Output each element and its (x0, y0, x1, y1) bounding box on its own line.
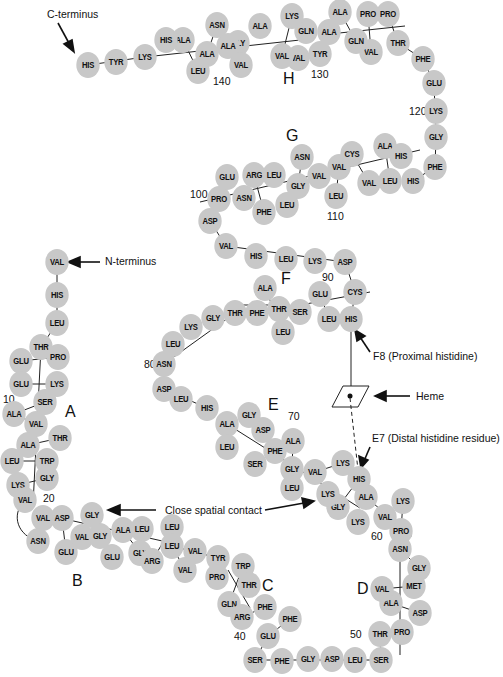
residue-glu: GLU (9, 371, 32, 397)
residue-number-50: 50 (350, 628, 362, 640)
residue-pro: PRO (356, 1, 379, 27)
residue-asp: ASP (408, 600, 431, 626)
residue-asp: ASP (50, 505, 73, 531)
residue-lys: LYS (179, 314, 202, 340)
residue-leu: LEU (186, 58, 209, 84)
residue-leu: LEU (160, 533, 183, 559)
residue-his: HIS (339, 306, 362, 332)
close-spatial-contact-label: Close spatial contact (165, 504, 262, 516)
heme-label: Heme (416, 390, 444, 402)
residue-glu: GLU (215, 164, 238, 190)
residue-asn: ASN (26, 528, 49, 554)
residue-val: VAL (173, 557, 196, 583)
residue-leu: LEU (378, 168, 401, 194)
residue-lys: LYS (280, 3, 303, 29)
residue-gly: GLY (35, 465, 58, 491)
residue-thr: THR (386, 30, 409, 56)
residue-thr: THR (48, 425, 71, 451)
residue-leu: LEU (0, 448, 23, 474)
helix-label-d: D (357, 580, 369, 598)
residue-lys: LYS (331, 450, 354, 476)
residue-his: HIS (401, 168, 424, 194)
residue-leu: LEU (280, 475, 303, 501)
residue-his: HIS (45, 282, 68, 308)
residue-ala: ALA (248, 13, 271, 39)
residue-his: HIS (389, 143, 412, 169)
residue-asp: ASP (333, 249, 356, 275)
residue-glu: GLU (308, 281, 331, 307)
residue-number-110: 110 (327, 210, 344, 222)
residue-val: VAL (214, 233, 237, 259)
residue-number-60: 60 (371, 530, 383, 542)
residue-ser: SER (243, 647, 266, 673)
residue-gly: GLY (237, 402, 260, 428)
residue-phe: PHE (270, 648, 293, 674)
residue-thr: THR (237, 572, 260, 598)
residue-phe: PHE (253, 594, 276, 620)
residue-number-70: 70 (288, 410, 300, 422)
residue-val: VAL (270, 43, 293, 69)
residue-lys: LYS (346, 509, 369, 535)
residue-phe: PHE (245, 300, 268, 326)
helix-label-e: E (268, 396, 279, 414)
residue-asp: ASP (320, 646, 343, 672)
residue-tyr: TYR (104, 49, 127, 75)
residue-pro: PRO (376, 1, 399, 27)
residue-lys: LYS (303, 248, 326, 274)
residue-lys: LYS (316, 481, 339, 507)
helix-label-c: C (262, 577, 274, 595)
residue-val: VAL (373, 504, 396, 530)
residue-phe: PHE (252, 199, 275, 225)
residue-ser: SER (369, 647, 392, 673)
e7-distal-histidine-label: E7 (Distal histidine residue) (372, 432, 500, 444)
residue-val: VAL (357, 170, 380, 196)
myoglobin-diagram: C-terminus N-terminus F8 (Proximal histi… (0, 0, 503, 677)
helix-label-b: B (72, 572, 83, 590)
residue-number-130: 130 (311, 68, 329, 80)
residue-thr: THR (267, 296, 290, 322)
residue-arg: ARG (140, 548, 163, 574)
residue-tyr: TYR (308, 41, 331, 67)
residue-number-100: 100 (190, 188, 208, 200)
residue-val: VAL (370, 576, 393, 602)
residue-number-40: 40 (234, 630, 246, 642)
residue-gly: GLY (424, 124, 447, 150)
residue-leu: LEU (343, 647, 366, 673)
residue-val: VAL (303, 459, 326, 485)
residue-number-140: 140 (213, 75, 231, 87)
residue-phe: PHE (423, 154, 446, 180)
residue-ser: SER (243, 451, 266, 477)
residue-leu: LEU (130, 516, 153, 542)
residue-his: HIS (244, 243, 267, 269)
residue-leu: LEU (215, 434, 238, 460)
residue-arg: ARG (230, 604, 253, 630)
residue-val: VAL (45, 249, 68, 275)
helix-label-g: G (286, 127, 298, 145)
residue-ala: ALA (2, 401, 25, 427)
n-terminus-label: N-terminus (105, 255, 156, 267)
residue-cys: CYS (343, 279, 366, 305)
residue-leu: LEU (324, 183, 347, 209)
helix-label-h: H (283, 70, 295, 88)
c-terminus-label: C-terminus (47, 8, 98, 20)
residue-his: HIS (154, 27, 177, 53)
residue-thr: THR (368, 621, 391, 647)
residue-pro: PRO (205, 564, 228, 590)
residue-gly: GLY (286, 173, 309, 199)
residue-asn: ASN (205, 12, 228, 38)
residue-cys: CYS (340, 141, 363, 167)
residue-gly: GLY (296, 646, 319, 672)
helix-label-f: F (281, 270, 291, 288)
residue-his: HIS (195, 395, 218, 421)
residue-pro: PRO (46, 344, 69, 370)
f8-proximal-histidine-label: F8 (Proximal histidine) (373, 350, 477, 362)
helix-label-a: A (65, 403, 76, 421)
residue-leu: LEU (262, 162, 285, 188)
residue-leu: LEU (317, 306, 340, 332)
residue-asp: ASP (152, 376, 175, 402)
residue-glu: GLU (256, 623, 279, 649)
residue-gly: GLY (201, 305, 224, 331)
residue-gln: GLN (344, 28, 367, 54)
residue-lys: LYS (133, 44, 156, 70)
residue-leu: LEU (45, 310, 68, 336)
